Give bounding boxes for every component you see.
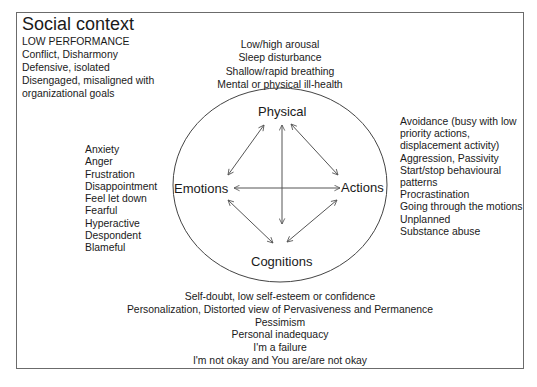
physical-item: Mental or physical ill-health bbox=[180, 78, 380, 91]
cognition-item: Personal inadequacy bbox=[80, 329, 480, 342]
node-actions: Actions bbox=[341, 180, 384, 195]
physical-symptoms-list: Low/high arousal Sleep disturbance Shall… bbox=[180, 38, 380, 91]
emotion-item: Despondent bbox=[85, 230, 157, 242]
social-context-title: Social context bbox=[22, 14, 134, 34]
arrow-actions-cognitions bbox=[287, 200, 337, 242]
cognitions-list: Self-doubt, low self-esteem or confidenc… bbox=[80, 291, 480, 368]
emotion-item: Hyperactive bbox=[85, 218, 157, 230]
action-item: Going through the motions bbox=[400, 201, 522, 213]
emotion-item: Anger bbox=[85, 156, 157, 168]
action-item: Procrastination bbox=[400, 189, 522, 201]
physical-item: Low/high arousal bbox=[180, 38, 380, 51]
arrow-physical-actions bbox=[291, 124, 338, 175]
arrow-physical-emotions bbox=[228, 125, 264, 175]
emotion-item: Feel let down bbox=[85, 193, 157, 205]
action-item: Aggression, Passivity bbox=[400, 153, 522, 165]
social-context-item: Conflict, Disharmony bbox=[22, 48, 154, 61]
action-item: Avoidance (busy with low bbox=[400, 116, 522, 128]
social-context-item: LOW PERFORMANCE bbox=[22, 35, 154, 48]
arrow-emotions-cognitions bbox=[228, 200, 273, 243]
actions-list: Avoidance (busy with low priority action… bbox=[400, 116, 522, 238]
cognition-item: I'm not okay and You are/are not okay bbox=[80, 355, 480, 368]
emotion-item: Fearful bbox=[85, 205, 157, 217]
node-physical: Physical bbox=[258, 104, 306, 119]
social-context-item: Defensive, isolated bbox=[22, 61, 154, 74]
emotion-item: Disappointment bbox=[85, 181, 157, 193]
node-cognitions: Cognitions bbox=[251, 254, 312, 269]
cognition-item: Pessimism bbox=[80, 317, 480, 330]
emotion-item: Frustration bbox=[85, 169, 157, 181]
physical-item: Sleep disturbance bbox=[180, 51, 380, 64]
emotion-item: Anxiety bbox=[85, 144, 157, 156]
action-item: priority actions, bbox=[400, 128, 522, 140]
social-context-item: organizational goals bbox=[22, 87, 154, 100]
action-item: Start/stop behavioural bbox=[400, 165, 522, 177]
node-emotions: Emotions bbox=[174, 181, 228, 196]
action-item: patterns bbox=[400, 177, 522, 189]
physical-item: Shallow/rapid breathing bbox=[180, 65, 380, 78]
social-context-list: LOW PERFORMANCE Conflict, Disharmony Def… bbox=[22, 35, 154, 100]
action-item: displacement activity) bbox=[400, 140, 522, 152]
emotions-list: Anxiety Anger Frustration Disappointment… bbox=[85, 144, 157, 255]
emotion-item: Blameful bbox=[85, 242, 157, 254]
action-item: Substance abuse bbox=[400, 226, 522, 238]
cognition-item: Personalization, Distorted view of Perva… bbox=[80, 304, 480, 317]
social-context-item: Disengaged, misaligned with bbox=[22, 74, 154, 87]
cognition-item: I'm a failure bbox=[80, 342, 480, 355]
cognition-item: Self-doubt, low self-esteem or confidenc… bbox=[80, 291, 480, 304]
action-item: Unplanned bbox=[400, 214, 522, 226]
